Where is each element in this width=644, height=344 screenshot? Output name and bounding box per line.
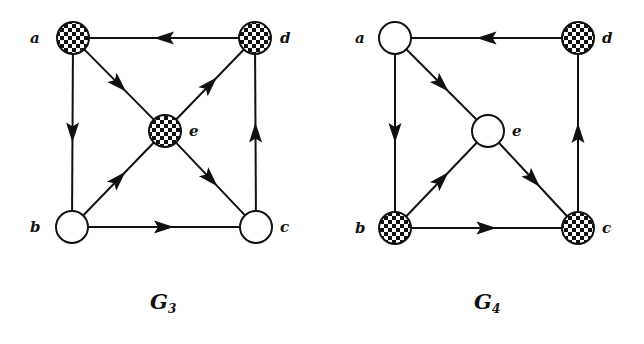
graph-g3: adebcG3 — [30, 22, 291, 316]
edge-e-to-c — [499, 143, 567, 217]
edge-b-to-e — [83, 142, 154, 215]
checkered-node-circle — [57, 22, 89, 54]
white-node-circle — [240, 211, 272, 243]
graph-title-letter: G — [150, 289, 168, 314]
white-node-circle — [56, 211, 88, 243]
edge-a-to-b — [389, 54, 402, 212]
edge-a-to-b — [66, 54, 79, 211]
node-d: d — [562, 22, 613, 54]
white-node-circle — [472, 115, 504, 147]
edge-b-to-c — [88, 221, 240, 234]
node-label: c — [602, 219, 611, 237]
edge-c-to-d — [249, 54, 262, 211]
node-a: a — [355, 22, 411, 54]
node-d: d — [239, 22, 291, 54]
node-c: c — [562, 212, 611, 244]
edge-d-to-a — [411, 32, 562, 45]
node-label: a — [30, 29, 40, 47]
checkered-node-circle — [149, 115, 181, 147]
node-e: e — [149, 115, 199, 147]
node-c: c — [240, 211, 289, 243]
diagram-canvas: adebcG3adebcG4 — [0, 0, 644, 344]
node-label: e — [189, 122, 199, 140]
node-b: b — [355, 212, 411, 244]
edge-e-to-c — [176, 143, 245, 216]
white-node-circle — [379, 22, 411, 54]
checkered-node-circle — [562, 22, 594, 54]
edge-b-to-c — [411, 222, 562, 235]
graph-title-letter: G — [474, 289, 492, 314]
edge-a-to-e — [84, 49, 153, 119]
graphs-layer: adebcG3adebcG4 — [30, 22, 613, 316]
node-e: e — [472, 115, 522, 147]
graph-title: G4 — [474, 289, 500, 316]
node-label: e — [512, 122, 522, 140]
checkered-node-circle — [379, 212, 411, 244]
nodes: adebc — [30, 22, 291, 243]
checkered-node-circle — [562, 212, 594, 244]
node-b: b — [30, 211, 88, 243]
graph-g4: adebcG4 — [355, 22, 613, 316]
node-label: b — [355, 219, 366, 237]
edge-b-to-e — [406, 143, 477, 217]
node-a: a — [30, 22, 89, 54]
edge-c-to-d — [572, 54, 585, 212]
node-label: b — [30, 218, 41, 236]
node-label: d — [602, 29, 613, 47]
checkered-node-circle — [239, 22, 271, 54]
graph-title: G3 — [150, 289, 176, 316]
edge-e-to-d — [176, 49, 244, 119]
node-label: a — [355, 29, 365, 47]
graph-title-subscript: 4 — [492, 302, 500, 316]
edge-a-to-e — [406, 49, 476, 119]
edge-d-to-a — [89, 32, 239, 45]
graph-title-subscript: 3 — [168, 302, 176, 316]
node-label: c — [280, 218, 289, 236]
node-label: d — [280, 29, 291, 47]
